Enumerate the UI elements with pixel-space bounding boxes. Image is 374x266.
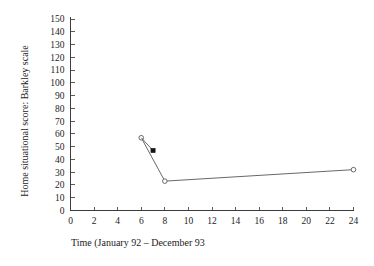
y-tick-label: 40 — [55, 155, 65, 165]
x-tick-label: 6 — [139, 216, 144, 226]
x-tick-label: 20 — [302, 216, 312, 226]
x-tick-label: 0 — [68, 216, 73, 226]
x-tick-label: 2 — [92, 216, 97, 226]
chart-figure: Home situational score: Barkley scale Ti… — [0, 0, 374, 266]
x-tick-label: 16 — [254, 216, 264, 226]
y-tick-label: 50 — [55, 142, 65, 152]
x-axis-title: Time (January 92 – December 93 — [71, 237, 205, 249]
y-axis-title-label: Home situational score: Barkley scale — [19, 45, 30, 197]
x-tick-label: 12 — [207, 216, 217, 226]
y-tick-label: 0 — [60, 206, 65, 216]
y-tick-label: 120 — [50, 53, 65, 63]
line-chart-canvas: Home situational score: Barkley scale Ti… — [0, 0, 374, 266]
y-tick-label: 140 — [50, 27, 65, 37]
x-tick-label: 4 — [115, 216, 120, 226]
x-tick-label: 14 — [231, 216, 241, 226]
y-tick-label: 130 — [50, 40, 65, 50]
y-tick-label: 100 — [50, 78, 65, 88]
x-tick-label: 10 — [184, 216, 194, 226]
x-tick-label: 22 — [325, 216, 335, 226]
x-axis-title-label: Time (January 92 – December 93 — [71, 237, 205, 249]
y-tick-label: 10 — [55, 193, 65, 203]
y-tick-label: 30 — [55, 168, 65, 178]
data-point-marker — [351, 167, 356, 172]
x-tick-label: 24 — [349, 216, 359, 226]
data-point-marker — [151, 148, 155, 152]
data-point-marker — [163, 179, 168, 184]
y-tick-label: 150 — [50, 14, 65, 24]
y-tick-label: 80 — [55, 104, 65, 114]
y-tick-label: 90 — [55, 91, 65, 101]
y-tick-label: 70 — [55, 117, 65, 127]
y-tick-label: 60 — [55, 129, 65, 139]
y-axis-title: Home situational score: Barkley scale — [19, 45, 30, 197]
x-tick-label: 8 — [162, 216, 167, 226]
y-tick-label: 110 — [51, 65, 65, 75]
x-tick-label: 18 — [278, 216, 288, 226]
y-tick-label: 20 — [55, 180, 65, 190]
